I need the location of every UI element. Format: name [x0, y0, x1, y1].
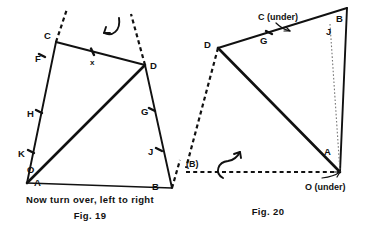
- fig19-rotate-left-arrowhead: [104, 27, 110, 33]
- fig-19-group: C F x D H G K O J A B Now turn over, lef…: [18, 9, 180, 221]
- fig20-label-g: G: [260, 35, 267, 46]
- fig19-edge-d-b: [145, 65, 172, 188]
- fig19-edge-a-b: [27, 183, 172, 188]
- fig20-dashed-edge-d-b: [186, 48, 218, 168]
- fig20-figure-caption: Fig. 20: [252, 206, 285, 217]
- fig20-label-j: J: [326, 26, 331, 37]
- fig19-dashed-extension-d: [131, 14, 145, 65]
- figures-svg: C F x D H G K O J A B Now turn over, lef…: [0, 0, 365, 230]
- fig19-label-c: C: [44, 30, 51, 41]
- fig19-label-o: O: [27, 164, 34, 175]
- fig19-edge-c-d: [56, 42, 145, 65]
- fig19-fold-a-d: [27, 65, 145, 183]
- figure-page: C F x D H G K O J A B Now turn over, lef…: [0, 0, 365, 230]
- fig20-rotate-up-arrow: [218, 152, 240, 178]
- fig20-label-d: D: [204, 39, 211, 50]
- fig19-tick-j: [156, 148, 162, 151]
- fig20-label-b-paren: (B): [186, 159, 199, 169]
- fig19-label-b: B: [152, 181, 159, 192]
- fig20-dotted-j-a: [330, 24, 340, 172]
- fig19-label-d: D: [150, 60, 157, 71]
- fig19-dashed-extension-b: [172, 160, 180, 188]
- fig20-label-a: A: [324, 146, 331, 157]
- fig19-tick-x: [91, 49, 94, 56]
- fig20-label-o-under: O (under): [305, 182, 346, 192]
- fig19-label-k: K: [18, 148, 25, 159]
- fig19-dashed-extension-c: [56, 9, 67, 42]
- fig20-edge-b-o: [340, 8, 347, 172]
- fig20-label-b: B: [336, 13, 343, 24]
- fig19-figure-caption: Fig. 19: [74, 210, 107, 221]
- fig19-label-x: x: [90, 58, 95, 67]
- fig19-label-h: H: [27, 108, 34, 119]
- fig19-label-g: G: [141, 106, 148, 117]
- fig19-instruction-caption: Now turn over, left to right: [26, 194, 155, 205]
- fig-20-group: C (under) D G J B (B) A O (under) Fig. 2…: [186, 8, 347, 217]
- fig19-label-a: A: [34, 177, 41, 188]
- fig19-label-j: J: [148, 146, 153, 157]
- fig19-label-f: F: [35, 53, 41, 64]
- fig20-label-c-under: C (under): [258, 12, 298, 22]
